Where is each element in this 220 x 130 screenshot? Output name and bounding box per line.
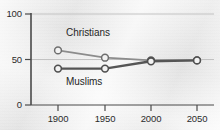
- data-point-christians-1950: [102, 54, 109, 61]
- data-point-muslims-1950: [102, 65, 109, 72]
- x-axis-label-1900: 1900: [38, 113, 78, 124]
- x-axis-label-2050: 2050: [177, 113, 217, 124]
- y-axis-label-50: 50: [0, 54, 22, 65]
- data-point-christians-1900: [55, 47, 62, 54]
- series-line-christians: [58, 50, 197, 60]
- data-point-muslims-2050: [194, 57, 201, 64]
- y-axis-label-0: 0: [0, 99, 22, 110]
- x-axis-label-1950: 1950: [85, 113, 125, 124]
- line-chart-plot: [0, 0, 220, 130]
- series-label-christians: Christians: [66, 27, 110, 38]
- chart-container: 100 50 0 1900 1950 2000 2050 Christians …: [0, 0, 220, 130]
- x-axis-label-2000: 2000: [131, 113, 171, 124]
- data-point-muslims-1900: [55, 65, 62, 72]
- data-point-muslims-2000: [148, 58, 155, 65]
- series-line-muslims: [58, 60, 197, 68]
- series-label-muslims: Muslims: [66, 76, 102, 87]
- y-axis-label-100: 100: [0, 8, 22, 19]
